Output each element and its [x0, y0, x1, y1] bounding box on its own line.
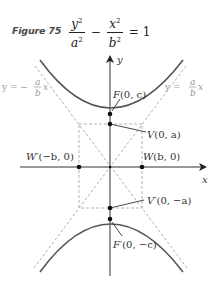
hyperbola-plot: y x F(0, c) V(0, a) W(b, 0) W′(−b, 0) V′…: [0, 0, 221, 286]
focus-bottom-label: F′(0, −c): [112, 239, 157, 250]
asymptote-left-label: y = − a b x: [1, 77, 48, 98]
y-axis-label: y: [116, 54, 123, 65]
upper-branch: [40, 60, 183, 108]
svg-text:x: x: [198, 82, 203, 92]
svg-text:b: b: [35, 88, 41, 98]
focus-bottom-point: [108, 217, 113, 222]
svg-text:y = −: y = −: [1, 82, 28, 92]
vertex-top-label: V(0, a): [147, 129, 181, 140]
focus-top-label: F(0, c): [112, 89, 146, 100]
svg-text:a: a: [35, 77, 40, 87]
svg-text:y =: y =: [164, 82, 181, 92]
center-point: [109, 166, 111, 168]
asymptote-right-label: y = a b x: [164, 77, 203, 98]
co-vertex-right-point: [140, 165, 145, 170]
svg-text:a: a: [190, 77, 195, 87]
co-vertex-left-label: W′(−b, 0): [26, 151, 74, 162]
co-vertex-left-point: [77, 165, 82, 170]
focus-top-point: [108, 112, 113, 117]
svg-text:x: x: [43, 82, 48, 92]
svg-text:b: b: [190, 88, 196, 98]
vertex-bottom-label: V′(0, −a): [147, 195, 191, 206]
vertex-bottom-point: [108, 206, 113, 211]
x-axis-label: x: [202, 174, 208, 185]
hyperbola-figure: Figure 75 y2 a2 − x2 b2 = 1: [0, 0, 221, 286]
co-vertex-right-label: W(b, 0): [143, 151, 180, 162]
vertex-top-point: [108, 122, 113, 127]
